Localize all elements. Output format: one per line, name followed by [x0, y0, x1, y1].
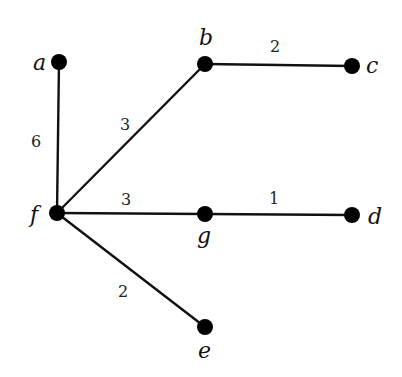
node-g	[197, 206, 213, 222]
edge-f-e	[57, 213, 205, 327]
node-f	[49, 205, 65, 221]
edge-b-c	[205, 64, 352, 66]
edge-weight-f-e: 2	[118, 282, 128, 301]
node-label-b: b	[199, 25, 213, 50]
node-label-d: d	[368, 204, 382, 229]
node-a	[51, 54, 67, 70]
edge-g-d	[205, 214, 352, 215]
labels-group: 632312abcfgde	[28, 25, 382, 363]
node-d	[344, 207, 360, 223]
node-label-e: e	[198, 338, 211, 363]
edge-weight-g-d: 1	[269, 189, 279, 208]
node-label-a: a	[33, 50, 46, 75]
node-label-g: g	[197, 223, 211, 248]
edges-group	[57, 62, 352, 327]
node-label-c: c	[366, 53, 378, 78]
edge-weight-b-c: 2	[270, 37, 280, 56]
edge-f-g	[57, 213, 205, 214]
node-label-f: f	[28, 202, 42, 227]
edge-a-f	[57, 62, 59, 213]
node-b	[197, 56, 213, 72]
graph-svg: 632312abcfgde	[0, 0, 402, 377]
node-c	[344, 58, 360, 74]
edge-weight-f-b: 3	[120, 115, 130, 134]
edge-weight-f-g: 3	[121, 190, 131, 209]
nodes-group	[49, 54, 360, 335]
edge-weight-a-f: 6	[31, 132, 41, 151]
graph-diagram: 632312abcfgde	[0, 0, 402, 377]
node-e	[197, 319, 213, 335]
